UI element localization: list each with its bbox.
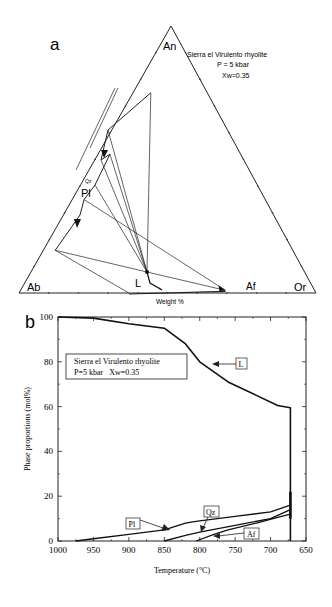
series-line-l: [58, 317, 290, 541]
ternary-tick: [33, 266, 35, 268]
ternary-tick: [286, 292, 288, 294]
x-tick-label: 850: [158, 545, 172, 555]
x-axis-label: Temperature (°C): [154, 566, 211, 575]
tie-line-pl-end-liquid: [55, 250, 147, 272]
phase-proportion-panel: b 1000950900850800750700650020406080100 …: [23, 312, 313, 575]
y-tick-label: 100: [40, 312, 54, 322]
plagioclase-path: [55, 93, 151, 251]
apex-label-ab: Ab: [27, 281, 40, 293]
tie-line-pl-2: [110, 154, 147, 272]
ternary-tick: [107, 292, 109, 294]
ternary-title-line-2: P = 5 kbar: [217, 61, 250, 68]
ternary-ticks: [33, 52, 302, 294]
ternary-axis-caption: Weight %: [156, 298, 184, 306]
y-tick-label: 0: [49, 536, 54, 546]
phase-label-pl: Pl: [81, 187, 91, 199]
ternary-tick: [49, 239, 51, 241]
annotation-qz-text: Qz: [206, 508, 216, 517]
tie-line-pl-end-bottom: [55, 250, 129, 293]
ternary-tick: [226, 292, 228, 294]
ternary-tick: [301, 266, 303, 268]
ternary-tick: [78, 292, 80, 294]
ternary-tick: [243, 159, 245, 161]
ternary-tick: [228, 132, 230, 134]
panel-label-a: a: [50, 35, 60, 54]
ternary-tick: [286, 239, 288, 241]
y-tick-label: 60: [44, 402, 54, 412]
ternary-tick: [64, 212, 66, 214]
y-tick-label: 80: [44, 357, 54, 367]
annotation-af-arrow: [218, 533, 244, 536]
annotation-l-arrowhead: [212, 361, 219, 367]
ternary-tick: [140, 79, 142, 81]
liquid-convergence-point: [145, 270, 149, 274]
ternary-tick: [109, 132, 111, 134]
apex-label-an: An: [163, 40, 176, 52]
plot-frame: [58, 317, 306, 541]
series-line-qz: [164, 510, 290, 541]
ternary-title-line-1: Sierra el Virulento rhyolite: [187, 51, 267, 59]
af-path-arrow: [218, 285, 225, 291]
ternary-tick: [272, 212, 274, 214]
phase-label-af: Af: [246, 281, 256, 292]
tie-line-pl-1: [101, 160, 147, 272]
x-tick-label: 750: [228, 545, 242, 555]
y-tick-label: 20: [44, 491, 54, 501]
ternary-tick: [257, 185, 259, 187]
legend-box: Sierra el Virulento rhyolite P=5 kbar Xw…: [66, 354, 187, 379]
annotation-pl-arrow: [140, 520, 163, 528]
annotation-pl-text: Pl: [129, 520, 136, 529]
annotation-pl: Pl: [126, 518, 170, 531]
tie-line-pl-upper-2: [90, 88, 118, 148]
annotation-l: L: [212, 358, 247, 369]
ternary-tick: [125, 105, 127, 107]
ternary-tick: [199, 79, 201, 81]
ternary-title-line-3: Xw=0.35: [222, 72, 250, 79]
panel-label-b: b: [25, 312, 35, 332]
x-tick-label: 650: [299, 545, 313, 555]
x-tick-label: 800: [193, 545, 207, 555]
tie-line-pl-start: [147, 93, 151, 272]
y-tick-label: 40: [44, 446, 54, 456]
ternary-tick: [256, 292, 258, 294]
annotation-af-text: Af: [247, 530, 256, 539]
annotation-af: Af: [213, 528, 259, 539]
ternary-tick: [155, 52, 157, 54]
x-tick-label: 950: [87, 545, 101, 555]
ternary-tick: [94, 159, 96, 161]
legend-box-line-2: P=5 kbar Xw=0.35: [74, 368, 139, 377]
ternary-tick: [214, 105, 216, 107]
tie-line-pl-af: [84, 200, 225, 291]
legend-box-line-1: Sierra el Virulento rhyolite: [74, 357, 160, 366]
x-tick-label: 900: [122, 545, 136, 555]
annotation-l-text: L: [239, 360, 244, 369]
ternary-panel: a An Ab Or L Af Pl Qz Weight % Sierra el…: [19, 26, 316, 306]
x-tick-label: 1000: [49, 545, 68, 555]
phase-label-qz: Qz: [85, 178, 92, 184]
tie-line-pl-3: [95, 185, 147, 272]
figure: a An Ab Or L Af Pl Qz Weight % Sierra el…: [0, 0, 332, 607]
tie-line-pl-0: [108, 130, 147, 272]
phase-label-l: L: [135, 277, 141, 289]
ternary-tick: [48, 292, 50, 294]
series-lines: [58, 317, 290, 541]
ternary-title: Sierra el Virulento rhyolite P = 5 kbar …: [187, 51, 267, 79]
apex-label-or: Or: [294, 281, 307, 293]
series-line-af: [196, 514, 290, 541]
x-tick-label: 700: [264, 545, 278, 555]
pl-path-arrow-2: [74, 219, 81, 228]
y-axis-label: Phase proportions (mol%): [23, 387, 32, 471]
